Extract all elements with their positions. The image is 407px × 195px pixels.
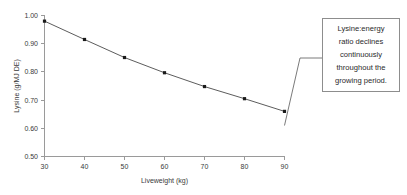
x-tick-label: 90 (281, 163, 289, 170)
x-tick-label: 60 (161, 163, 169, 170)
data-point-marker (163, 71, 166, 74)
y-tick-label: 0.50 (24, 153, 38, 160)
x-tick-label: 80 (241, 163, 249, 170)
data-point-marker (243, 97, 246, 100)
callout-line: Lysine:energy (338, 24, 385, 33)
data-point-marker (283, 110, 286, 113)
callout-line: growing period. (335, 76, 387, 85)
y-tick-label: 1.00 (24, 12, 38, 19)
data-point-marker (203, 85, 206, 88)
x-axis-title: Liveweight (kg) (141, 177, 188, 185)
x-tick-label: 40 (81, 163, 89, 170)
y-tick-label: 0.60 (24, 125, 38, 132)
y-axis-title: Lysine (g/MJ DE) (13, 59, 21, 112)
x-tick-label: 50 (121, 163, 129, 170)
chart-figure: 0.50 0.60 0.70 0.80 0.90 1.00 30 40 50 6… (0, 0, 407, 195)
y-tick-label: 0.70 (24, 97, 38, 104)
y-tick-label: 0.80 (24, 68, 38, 75)
data-point-marker (43, 20, 46, 23)
data-point-marker (83, 38, 86, 41)
x-tick-label: 30 (41, 163, 49, 170)
callout-line: continuously (340, 50, 382, 59)
callout-line: throughout the (337, 63, 386, 72)
line-chart: 0.50 0.60 0.70 0.80 0.90 1.00 30 40 50 6… (0, 0, 407, 195)
x-tick-label: 70 (201, 163, 209, 170)
callout-line: ratio declines (339, 37, 384, 46)
data-point-marker (123, 56, 126, 59)
y-tick-label: 0.90 (24, 40, 38, 47)
